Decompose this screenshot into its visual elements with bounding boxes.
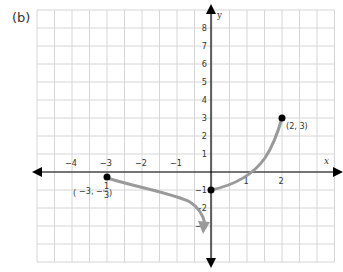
svg-text:−3: −3 — [100, 158, 112, 168]
svg-text:(: ( — [73, 188, 76, 198]
svg-text:6: 6 — [202, 59, 207, 69]
svg-text:1: 1 — [202, 149, 207, 159]
svg-text:−1: −1 — [195, 185, 207, 195]
left-branch-curve — [107, 178, 205, 224]
grid — [37, 10, 335, 262]
svg-text:2: 2 — [202, 131, 207, 141]
svg-text:4: 4 — [202, 95, 207, 105]
svg-text:): ) — [109, 188, 112, 198]
y-axis-label: y — [216, 10, 223, 20]
svg-text:−1: −1 — [170, 158, 182, 168]
svg-text:2: 2 — [278, 176, 283, 186]
tick-labels: −4−3−2−112−3−2−112345678 — [65, 23, 284, 231]
point-2-3 — [279, 115, 286, 122]
svg-text:5: 5 — [202, 77, 207, 87]
svg-text:−3, −: −3, − — [79, 186, 103, 196]
svg-text:8: 8 — [202, 23, 207, 33]
svg-text:7: 7 — [202, 41, 207, 51]
point-neg3 — [104, 174, 111, 181]
point-label-neg3: ( −3, − 1 3 ) — [73, 181, 112, 200]
graph: −4−3−2−112−3−2−112345678 x y (2, 3) ( −3… — [0, 0, 343, 272]
x-axis-label: x — [324, 156, 329, 166]
svg-text:−4: −4 — [65, 158, 77, 168]
point-0-neg1 — [208, 187, 215, 194]
svg-text:−2: −2 — [135, 158, 147, 168]
svg-text:3: 3 — [202, 113, 207, 123]
point-label-2-3: (2, 3) — [286, 121, 308, 131]
y-axis-down-arrow-icon — [206, 258, 216, 268]
y-axis-up-arrow-icon — [206, 4, 216, 14]
x-axis-right-arrow-icon — [333, 167, 343, 177]
